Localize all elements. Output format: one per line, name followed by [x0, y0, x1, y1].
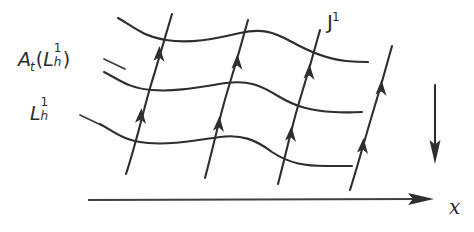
arrowhead-v3-lower: [285, 126, 296, 142]
leader-line-lh: [80, 115, 101, 125]
label-x-axis: x: [449, 197, 460, 217]
arrowhead-v2-upper: [232, 54, 243, 70]
label-at-inner-subscript: h: [54, 56, 62, 68]
diagram-svg: [0, 0, 474, 232]
label-j1-superscript: 1: [332, 10, 340, 24]
label-lh1: L1h: [30, 101, 50, 123]
x-axis-line: [88, 199, 414, 200]
vertical-curve-4: [350, 46, 392, 190]
arrowhead-v4-upper: [376, 80, 387, 96]
label-lh-base: L: [30, 102, 41, 124]
label-at-close-paren: ): [63, 48, 70, 70]
x-axis: [88, 193, 434, 205]
figure-canvas: At(L1h) L1h J1 x: [0, 0, 474, 232]
vertical-curve-1: [126, 14, 172, 174]
horizontal-curve-middle: [104, 72, 362, 112]
arrowhead-v2-lower: [213, 116, 224, 132]
leader-line-at: [104, 59, 125, 69]
horizontal-curve-group: [100, 18, 368, 166]
label-lh-scripts: 1h: [41, 101, 50, 120]
label-at-lh1: At(L1h): [18, 47, 70, 69]
projection-arrow: [430, 85, 441, 164]
label-at-inner-base: L: [43, 48, 54, 70]
label-lh-subscript: h: [41, 110, 49, 122]
label-at-inner-scripts: 1h: [54, 47, 63, 66]
label-at-subscript: t: [30, 60, 35, 74]
label-jet-bundle: J1: [327, 12, 341, 32]
label-at-inner-superscript: 1: [54, 42, 62, 54]
arrowhead-v3-upper: [304, 64, 315, 80]
label-x-base: x: [449, 195, 460, 219]
vertical-curve-2: [205, 20, 248, 178]
label-lh-superscript: 1: [41, 96, 49, 108]
leader-line-group: [80, 59, 125, 125]
